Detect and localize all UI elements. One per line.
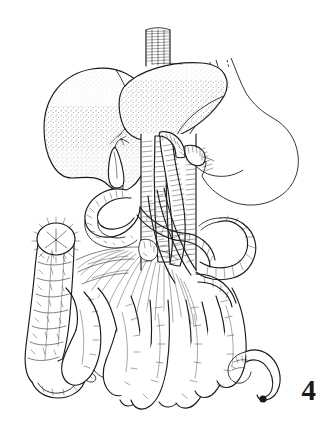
anatomical-illustration bbox=[0, 0, 323, 429]
figure-container: 4 bbox=[0, 0, 323, 429]
appendix-tip bbox=[259, 395, 266, 402]
figure-number-label: 4 bbox=[302, 376, 317, 405]
